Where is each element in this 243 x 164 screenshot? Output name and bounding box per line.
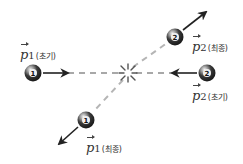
subscript: 2 xyxy=(200,91,206,102)
momentum-symbol: p xyxy=(20,47,28,62)
p1-final-arrow xyxy=(59,127,78,144)
ball-2-initial: 2 xyxy=(199,65,216,82)
label-p1-final: p1(최종) xyxy=(86,139,122,155)
collision-diagram: 1 2 2 1 p1(초기) p2(최종) p2(초기) p1(최종) xyxy=(0,0,243,164)
subscript: 1 xyxy=(94,143,100,154)
state-tag: (초기) xyxy=(208,93,228,102)
ball-2-final: 2 xyxy=(167,29,184,46)
p2-final-arrow xyxy=(183,12,206,30)
path-ball2-out xyxy=(133,43,167,67)
subscript: 2 xyxy=(200,42,206,53)
ball-number: 1 xyxy=(31,70,36,78)
ball-number: 1 xyxy=(84,117,89,125)
ball-1-initial: 1 xyxy=(25,65,42,82)
ball-number: 2 xyxy=(173,34,178,42)
label-p1-initial: p1(초기) xyxy=(20,46,56,62)
state-tag: (초기) xyxy=(36,52,56,61)
subscript: 1 xyxy=(28,50,34,61)
momentum-symbol: p xyxy=(192,88,200,103)
state-tag: (최종) xyxy=(208,44,228,53)
state-tag: (최종) xyxy=(102,145,122,154)
momentum-symbol: p xyxy=(192,39,200,54)
ball-1-final: 1 xyxy=(78,112,95,129)
label-p2-final: p2(최종) xyxy=(192,38,228,54)
ball-number: 2 xyxy=(205,70,210,78)
label-p2-initial: p2(초기) xyxy=(192,87,228,103)
path-ball1-out xyxy=(93,80,123,112)
momentum-symbol: p xyxy=(86,140,94,155)
burst-icon xyxy=(119,64,137,82)
trajectory-paths xyxy=(68,43,172,112)
